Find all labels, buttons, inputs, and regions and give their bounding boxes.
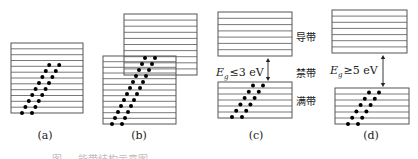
electron-dot [134,74,138,78]
electron-dot [238,102,242,106]
electron-dot [257,90,261,94]
electron-dot [147,68,151,72]
panel-b-lower-band [103,56,176,124]
electron-dot [47,81,51,85]
gap-subscript: g [224,73,229,81]
gap-energy-label-d: Eg≥5 eV [329,64,379,79]
electron-dot [247,90,251,94]
panel-d-gap-arrow [381,55,385,87]
electron-dot [261,84,265,88]
electron-dot [54,69,58,73]
electron-dot [364,109,368,113]
electron-dot [363,97,367,101]
electron-dot [44,69,48,73]
electron-dot [350,116,354,120]
electron-dot [33,105,37,109]
electron-dot [113,116,117,120]
electron-dot [253,96,257,100]
electron-dot [141,80,145,84]
electron-dot [240,115,244,119]
band-diagram-figure: (a) (b) (c) (d) 导带 禁带 满带 Eg≤3 eV Eg≥5 eV… [0,0,418,159]
panel-c-gap-arrow [266,58,270,81]
electron-dot [373,97,377,101]
electron-dot [346,122,350,126]
electron-dot [23,105,27,109]
electron-dot [30,93,34,97]
electron-dot [122,98,126,102]
gap-subscript: g [338,71,343,79]
electron-dot [137,68,141,72]
electron-dot [126,110,130,114]
electron-dot [20,111,24,115]
electron-dot [243,96,247,100]
electron-dot [37,99,41,103]
electron-dot [34,87,38,91]
conduction-band-label: 导带 [296,32,316,43]
panel-c-conduction-band [218,12,292,56]
electron-dot [356,122,360,126]
panel-label-d: (d) [363,129,379,142]
electron-dot [244,109,248,113]
electron-dot [128,86,132,90]
electron-dot [369,103,373,107]
gap-energy-label-c: Eg≤3 eV [215,66,265,81]
electron-dot [138,86,142,90]
panel-label-b: (b) [131,129,147,142]
electron-dot [129,104,133,108]
gap-relation: ≤3 eV [230,66,265,79]
electron-dot [143,56,147,60]
figure-caption: 图 … 能带结构示意图 [52,153,148,159]
electron-dot [359,103,363,107]
panel-label-a: (a) [37,129,52,142]
electron-dot [135,92,139,96]
electron-dot [40,93,44,97]
electron-dot [40,75,44,79]
forbidden-band-label: 禁带 [296,68,316,79]
electron-dot [150,62,154,66]
panel-a-band [11,43,83,113]
electron-dot [367,91,371,95]
electron-dot [27,99,31,103]
electron-dot [153,56,157,60]
panel-b-upper-band [124,14,197,75]
arrow-head-up [266,58,270,62]
electron-dot [234,109,238,113]
valence-band-label: 满带 [296,96,316,107]
arrow-head-down [381,83,385,87]
electron-dot [230,115,234,119]
electron-dot [47,63,51,67]
panel-b-electrons [110,56,157,126]
electron-dot [360,116,364,120]
panel-label-c: (c) [249,129,264,142]
arrow-head-down [266,77,270,81]
electron-dot [44,87,48,91]
electron-dot [30,111,34,115]
electron-dot [354,109,358,113]
electron-dot [144,74,148,78]
gap-symbol: E [329,64,338,77]
electron-dot [123,116,127,120]
electron-dot [377,91,381,95]
electron-dot [131,80,135,84]
gap-symbol: E [215,66,224,79]
gap-relation: ≥5 eV [344,64,379,77]
electron-dot [125,92,129,96]
electron-dot [140,62,144,66]
electron-dot [132,98,136,102]
panel-d-conduction-band [332,10,407,53]
electron-dot [37,81,41,85]
electron-dot [57,63,61,67]
electron-dot [120,122,124,126]
electron-dot [119,104,123,108]
electron-dot [248,102,252,106]
electron-dot [251,84,255,88]
electron-dot [110,122,114,126]
arrow-head-up [381,55,385,59]
electron-dot [50,75,54,79]
electron-dot [116,110,120,114]
